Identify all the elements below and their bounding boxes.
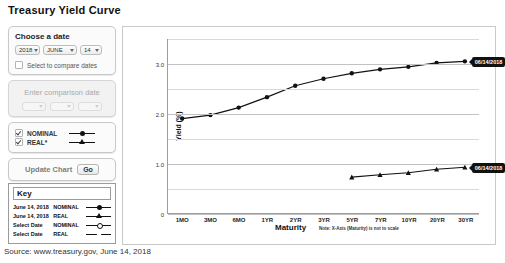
compare-dates-checkbox[interactable]	[15, 61, 23, 69]
key-row-type: NOMINAL	[53, 204, 82, 210]
chevron-down-icon	[34, 49, 38, 52]
chevron-down-icon	[70, 49, 74, 52]
source-caption: Source: www.treasury.gov, June 14, 2018	[4, 247, 151, 256]
x-axis-label: Maturity	[275, 223, 306, 232]
go-button[interactable]: Go	[77, 164, 99, 175]
month-select[interactable]: JUNE	[43, 45, 77, 55]
update-chart-row: Update Chart Go	[15, 164, 109, 175]
y-axis-tick: 0	[161, 212, 164, 218]
real-toggle-row[interactable]: REAL*	[15, 138, 109, 146]
chart-gridline-minor	[168, 189, 479, 190]
key-row-date: June 14, 2018	[13, 213, 50, 219]
key-row-date: Select Date	[13, 231, 50, 237]
data-point-circle-marker	[406, 65, 410, 69]
page-title: Treasury Yield Curve	[8, 4, 121, 16]
comparison-year-select	[22, 102, 46, 111]
x-axis-tick: 7YR	[375, 217, 387, 223]
y-axis-tick: 3.0	[156, 62, 164, 68]
series-toggle-panel: NOMINAL REAL*	[8, 122, 116, 153]
chart-gridline-major: 0	[168, 214, 479, 215]
choose-date-panel: Choose a date 2018 JUNE 14 Select to com…	[8, 26, 116, 75]
key-row: Select Date NOMINAL	[13, 221, 111, 229]
x-axis-tick: 20YR	[430, 217, 445, 223]
y-axis-tick: 1.0	[156, 162, 164, 168]
year-select[interactable]: 2018	[15, 45, 40, 55]
x-axis-tick: 1MO	[176, 217, 189, 223]
data-point-circle-marker	[180, 116, 184, 120]
data-point-circle-marker	[463, 59, 467, 63]
key-row-type: REAL	[53, 231, 82, 237]
open-circle-marker-icon	[86, 221, 111, 229]
x-axis-note: Note: X-Axis (Maturity) is not to scale	[319, 226, 399, 231]
key-row-type: NOMINAL	[53, 222, 82, 228]
key-heading: Key	[13, 187, 111, 200]
update-chart-label: Update Chart	[25, 165, 72, 174]
chart-gridline-minor	[168, 39, 479, 40]
chart-gridline-major: 1.0	[168, 164, 479, 165]
chart-gridline-major: 2.0	[168, 114, 479, 115]
chevron-down-icon	[39, 105, 43, 108]
data-point-circle-marker	[321, 77, 325, 81]
x-axis-tick: 5YR	[347, 217, 359, 223]
chart-gridline-minor	[168, 139, 479, 140]
key-row: June 14, 2018 NOMINAL	[13, 203, 111, 211]
chart-plot-area: Yield (%) 01.02.03.01MO3MO6MO1YR2YR3YR5Y…	[167, 39, 479, 214]
real-label: REAL*	[27, 139, 65, 146]
comparison-day-select	[78, 102, 102, 111]
chart-series-layer	[168, 39, 479, 213]
data-point-circle-marker	[378, 67, 382, 71]
chart-annotation-nominal: 06/14/2018	[472, 57, 505, 67]
filled-circle-marker-icon	[86, 203, 111, 211]
nominal-swatch-icon	[69, 129, 95, 137]
key-row: Select Date REAL	[13, 230, 111, 238]
comparison-month-select	[50, 102, 74, 111]
key-box: Key June 14, 2018 NOMINAL June 14, 2018 …	[8, 183, 116, 244]
update-chart-panel: Update Chart Go	[8, 158, 116, 181]
open-triangle-marker-icon	[86, 230, 111, 238]
chart-gridline-major: 3.0	[168, 64, 479, 65]
data-point-circle-marker	[236, 105, 240, 109]
comparison-date-panel: Enter comparison date	[8, 80, 116, 117]
data-point-circle-marker	[265, 95, 269, 99]
x-axis-tick: 1YR	[261, 217, 273, 223]
x-axis-tick: 3YR	[318, 217, 330, 223]
chart-gridline-minor	[168, 89, 479, 90]
chevron-down-icon	[95, 49, 99, 52]
day-select[interactable]: 14	[80, 45, 102, 55]
nominal-toggle-row[interactable]: NOMINAL	[15, 129, 109, 137]
controls-column: Choose a date 2018 JUNE 14 Select to com…	[8, 26, 116, 186]
key-row-date: June 14, 2018	[13, 204, 50, 210]
nominal-checkbox[interactable]	[15, 129, 23, 137]
key-row-type: REAL	[53, 213, 82, 219]
chart-annotation-real: 06/14/2018	[472, 163, 505, 173]
x-axis-tick: 6MO	[232, 217, 245, 223]
real-checkbox[interactable]	[15, 138, 23, 146]
y-axis-tick: 2.0	[156, 112, 164, 118]
compare-dates-label: Select to compare dates	[27, 62, 97, 69]
data-point-circle-marker	[350, 71, 354, 75]
choose-date-heading: Choose a date	[15, 32, 109, 41]
x-axis-tick: 30YR	[458, 217, 473, 223]
real-swatch-icon	[69, 138, 95, 146]
key-row: June 14, 2018 REAL	[13, 212, 111, 220]
chevron-down-icon	[95, 105, 99, 108]
nominal-label: NOMINAL	[27, 130, 65, 137]
chevron-down-icon	[67, 105, 71, 108]
day-select-value: 14	[84, 47, 91, 53]
data-point-circle-marker	[293, 84, 297, 88]
x-axis-tick: 10YR	[402, 217, 417, 223]
x-axis-tick: 3MO	[204, 217, 217, 223]
month-select-value: JUNE	[47, 47, 63, 53]
key-row-date: Select Date	[13, 222, 50, 228]
comparison-select-row	[15, 102, 109, 111]
compare-dates-row[interactable]: Select to compare dates	[15, 61, 109, 69]
date-select-row: 2018 JUNE 14	[15, 45, 109, 55]
comparison-date-placeholder: Enter comparison date	[15, 88, 109, 97]
chart-container: Yield (%) 01.02.03.01MO3MO6MO1YR2YR3YR5Y…	[122, 26, 496, 245]
filled-triangle-marker-icon	[86, 212, 111, 220]
year-select-value: 2018	[19, 47, 32, 53]
